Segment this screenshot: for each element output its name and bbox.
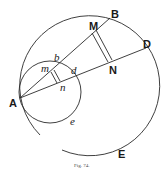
label-D: D [143,38,151,50]
label-m: m [41,62,49,74]
label-d: d [71,64,77,76]
line-A-D [20,48,146,98]
label-b: b [54,51,60,63]
label-A: A [9,97,17,109]
figure-caption: Fig. 74. [74,163,89,168]
label-n: n [60,81,66,93]
label-M: M [89,20,98,32]
figure-74-diagram: A B D M N E b m d n e Fig. 74. [0,0,162,175]
label-e: e [70,115,75,127]
large-circle-arc [20,16,160,156]
label-B: B [111,8,119,20]
label-E: E [118,148,125,160]
label-N: N [109,64,117,76]
